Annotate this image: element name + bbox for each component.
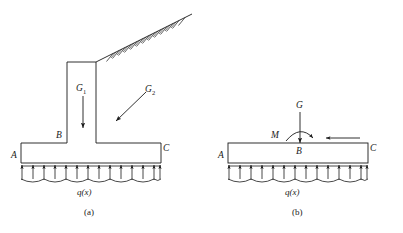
panel-a-caption: (a) [84,207,94,217]
panel-b-caption: (b) [292,207,303,217]
g1-subscript: 1 [83,88,86,95]
panel-a-label-b: B [56,130,62,140]
ground-slope-line [96,14,192,62]
panel-a-load-envelope [21,179,161,182]
panel-b-label-g: G [296,100,303,110]
retaining-wall-outline [21,62,161,163]
panel-a-label-a: A [11,150,17,160]
panel-a-label-qx: q(x) [77,187,92,197]
engineering-diagram-svg [0,0,403,233]
panel-b-label-m: M [271,130,279,140]
g1-symbol: G [76,83,83,93]
m-moment-arc-arrow [286,132,313,141]
panel-b-label-b: B [296,146,302,156]
figure-container: A B C G1 G2 q(x) (a) A B C G M q(x) (b) [0,0,403,233]
panel-a-reaction-arrows [22,165,160,180]
g2-symbol: G [145,84,152,94]
panel-b-label-a: A [218,150,224,160]
panel-a-label-g1: G1 [76,83,86,95]
panel-a-group [21,14,192,182]
g2-subscript: 2 [152,89,155,96]
panel-b-reaction-arrows [229,165,367,180]
slope-hatching [107,18,186,62]
panel-b-label-qx: q(x) [285,187,300,197]
panel-b-load-envelope [228,179,368,182]
panel-b-label-c: C [370,143,376,153]
g2-force-arrow [116,92,146,121]
panel-a-label-c: C [163,143,169,153]
panel-a-label-g2: G2 [145,84,155,96]
